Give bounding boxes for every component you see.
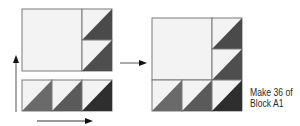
assembled-block-a1 — [152, 18, 242, 111]
half-square-triangle — [82, 9, 112, 40]
left-top-unit — [22, 9, 112, 71]
half-square-triangle — [152, 80, 182, 111]
left-bottom-strip — [22, 80, 112, 111]
half-square-triangle — [212, 80, 242, 111]
half-square-triangle — [182, 80, 212, 111]
half-square-triangle — [212, 18, 242, 49]
up-arrow-icon — [13, 55, 19, 112]
large-square — [22, 9, 82, 71]
half-square-triangle — [212, 49, 242, 80]
half-square-triangle — [82, 80, 112, 111]
right-arrow-icon — [120, 60, 147, 66]
half-square-triangle — [82, 40, 112, 71]
large-square — [152, 18, 212, 80]
block-caption: Make 36 of Block A1 — [250, 87, 293, 109]
half-square-triangle — [52, 80, 82, 111]
caption-line-2: Block A1 — [250, 98, 293, 109]
half-square-triangle — [22, 80, 52, 111]
right-arrow-icon — [37, 118, 93, 124]
